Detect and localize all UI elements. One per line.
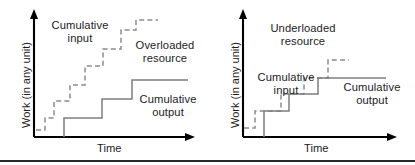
annotation-line-1: Cumulative xyxy=(334,81,410,94)
annotation-line-2: output xyxy=(132,106,204,119)
annotation-line-1: Overloaded xyxy=(128,39,202,52)
annotation-cumulative-input-underloaded: Cumulative input xyxy=(248,71,324,97)
x-axis-arrowhead xyxy=(387,133,397,141)
annotation-line-1: Cumulative xyxy=(248,71,324,84)
annotation-cumulative-input-overloaded: Cumulative input xyxy=(41,19,119,45)
y-axis-title-overloaded: Work (in any unit) xyxy=(20,42,32,128)
x-axis-arrowhead xyxy=(185,133,195,141)
annotation-line-2: input xyxy=(41,32,119,45)
bottom-divider-rule xyxy=(0,160,415,162)
annotation-line-2: resource xyxy=(128,52,202,65)
annotation-underloaded-resource: Underloaded resource xyxy=(262,22,344,48)
annotation-cumulative-output-underloaded: Cumulative output xyxy=(334,81,410,107)
annotation-cumulative-output-overloaded: Cumulative output xyxy=(132,93,204,119)
y-axis-arrowhead xyxy=(30,9,38,19)
y-axis-arrowhead xyxy=(239,9,247,19)
annotation-line-1: Cumulative xyxy=(41,19,119,32)
chart-panel-overloaded: Work (in any unit) Time Cumulative input… xyxy=(0,0,207,150)
figure-container: Work (in any unit) Time Cumulative input… xyxy=(0,0,415,165)
chart-panel-underloaded: Work (in any unit) Time Underloaded reso… xyxy=(208,0,415,150)
y-axis-title-underloaded: Work (in any unit) xyxy=(229,42,241,128)
annotation-line-1: Underloaded xyxy=(262,22,344,35)
annotation-line-2: output xyxy=(334,94,410,107)
x-axis-title-overloaded: Time xyxy=(97,142,121,154)
annotation-overloaded-resource: Overloaded resource xyxy=(128,39,202,65)
annotation-line-1: Cumulative xyxy=(132,93,204,106)
annotation-line-2: input xyxy=(248,84,324,97)
annotation-line-2: resource xyxy=(262,35,344,48)
x-axis-title-underloaded: Time xyxy=(304,142,328,154)
